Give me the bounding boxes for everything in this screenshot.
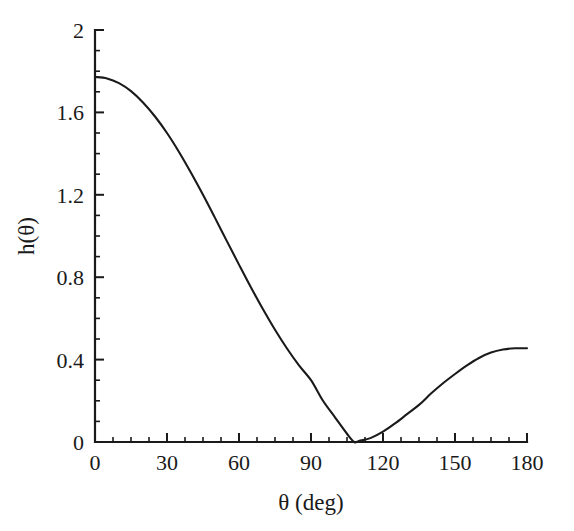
y-tick-label: 1.2 [57,183,85,208]
x-tick-label: 150 [439,450,472,475]
y-tick-label: 2 [73,18,84,43]
y-tick-label: 0 [73,430,84,455]
chart-figure: 030609012015018000.40.81.21.62 θ (deg)h(… [0,0,574,531]
y-tick-label: 1.6 [57,100,85,125]
y-tick-label: 0.8 [57,265,85,290]
x-tick-label: 30 [156,450,178,475]
x-tick-label: 60 [228,450,250,475]
x-tick-label: 180 [511,450,544,475]
chart-background [0,0,574,531]
x-tick-label: 0 [90,450,101,475]
x-tick-label: 120 [367,450,400,475]
x-tick-label: 90 [300,450,322,475]
y-axis-title: h(θ) [14,217,39,255]
y-tick-label: 0.4 [57,348,85,373]
x-axis-title: θ (deg) [278,490,343,515]
chart-plot-area: 030609012015018000.40.81.21.62 θ (deg)h(… [0,0,574,531]
